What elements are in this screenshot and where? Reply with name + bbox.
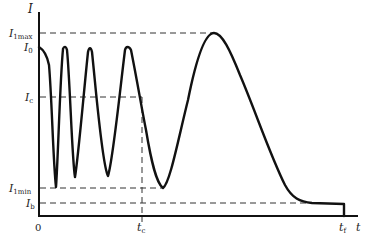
waveform-diagram: I t 0 I1max I0 Ic I1min Ib tc tf <box>0 0 370 240</box>
i1min-label: I1min <box>8 182 32 196</box>
x-mark-labels: tc tf <box>137 221 347 235</box>
tc-label: tc <box>137 221 145 235</box>
axes <box>38 12 358 217</box>
x-axis-label: t <box>356 221 361 234</box>
current-curve <box>39 33 344 216</box>
ib-label: Ib <box>25 197 35 211</box>
y-level-labels: I1max I0 Ic I1min Ib <box>8 27 35 211</box>
i1max-label: I1max <box>8 27 33 41</box>
tf-label: tf <box>339 221 347 235</box>
i0-label: I0 <box>23 41 33 55</box>
origin-label: 0 <box>35 222 41 233</box>
y-axis-label: I <box>27 2 33 16</box>
ic-label: Ic <box>24 91 33 105</box>
